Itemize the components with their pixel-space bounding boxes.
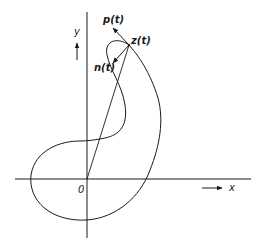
- x-axis-label: x: [229, 183, 235, 193]
- origin-label: 0: [78, 185, 84, 195]
- point-z-label: z(t): [131, 36, 151, 46]
- point-z: [128, 44, 130, 46]
- diagram-canvas: y x 0 z(t) p(t) n(t): [0, 0, 263, 250]
- y-axis-label: y: [74, 27, 80, 37]
- tangent-vector-p: [113, 28, 129, 45]
- normal-n-label: n(t): [94, 63, 115, 73]
- tangent-p-label: p(t): [103, 15, 124, 25]
